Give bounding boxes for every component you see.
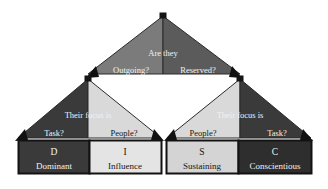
branch-outgoing-right-half (88, 79, 161, 138)
outcome-box-i (90, 141, 162, 174)
disc-diagram: Are they Outgoing? Reserved? Their focus… (0, 0, 328, 189)
root-right-half (163, 16, 240, 74)
branch-outgoing-node-marker (85, 76, 92, 82)
diagram-shapes (0, 0, 328, 189)
branch-reserved-node-marker (237, 76, 244, 82)
outcome-box-d (19, 141, 90, 174)
branch-reserved-right-half (240, 79, 311, 138)
root-node-marker (160, 13, 167, 19)
branch-reserved-left-half (167, 79, 240, 138)
root-triangle (88, 13, 240, 75)
branch-reserved-triangle (167, 76, 311, 139)
outcome-box-c (239, 141, 312, 174)
arrow-to-sustaining-icon (164, 129, 177, 141)
outcome-boxes (19, 141, 312, 174)
arrow-to-influence-icon (151, 129, 164, 141)
root-left-half (88, 16, 163, 74)
branch-outgoing-left-half (18, 79, 88, 138)
branch-outgoing-triangle (18, 76, 161, 139)
outcome-box-s (167, 141, 239, 174)
